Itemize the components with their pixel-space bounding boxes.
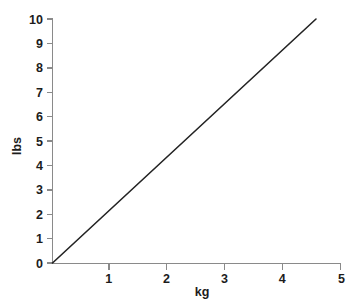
chart-container: 10 9 8 7 6 5 4 3 2 1 0 lbs <box>0 0 360 307</box>
x-axis-title: kg <box>195 285 210 299</box>
y-tick-label-3: 3 <box>36 183 43 197</box>
x-tick-label-5: 5 <box>338 272 345 286</box>
y-tick-label-9: 9 <box>36 37 43 51</box>
y-axis-title: lbs <box>10 137 24 155</box>
y-tick-label-0: 0 <box>36 257 43 271</box>
y-tick-label-6: 6 <box>36 110 43 124</box>
x-tick-label-2: 2 <box>163 272 170 286</box>
y-tick-label-10: 10 <box>29 13 43 27</box>
line-chart: 10 9 8 7 6 5 4 3 2 1 0 lbs <box>0 0 360 307</box>
y-tick-label-5: 5 <box>36 135 43 149</box>
y-tick-label-8: 8 <box>36 61 43 75</box>
y-tick-label-1: 1 <box>36 232 43 246</box>
x-tick-label-4: 4 <box>279 272 286 286</box>
x-tick-label-1: 1 <box>105 272 112 286</box>
y-tick-label-7: 7 <box>36 86 43 100</box>
y-tick-label-4: 4 <box>36 159 43 173</box>
x-tick-label-3: 3 <box>221 272 228 286</box>
y-tick-label-2: 2 <box>36 208 43 222</box>
